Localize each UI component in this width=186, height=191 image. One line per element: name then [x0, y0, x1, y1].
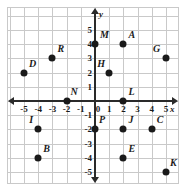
point-label-m: M [100, 30, 109, 40]
point-label-b: B [43, 144, 50, 154]
x-tick-label: 0 [96, 105, 101, 114]
point-label-p: P [99, 115, 105, 125]
data-point-b [35, 154, 42, 161]
data-point-c [148, 126, 155, 133]
grid-line-vertical [152, 7, 153, 184]
point-label-i: I [29, 115, 33, 125]
x-axis [12, 100, 174, 102]
x-tick-label: 4 [150, 105, 155, 114]
data-point-l [120, 98, 127, 105]
point-label-n: N [71, 87, 78, 97]
y-tick-label: 5 [88, 26, 93, 35]
data-point-m [92, 41, 99, 48]
y-tick-label: 1 [88, 82, 93, 91]
y-axis-label: y [99, 10, 103, 19]
grid-line-vertical [166, 7, 167, 184]
point-label-j: J [128, 115, 133, 125]
grid-line-horizontal [7, 73, 179, 74]
axis-arrow-left [8, 97, 14, 105]
point-label-e: E [128, 144, 135, 154]
x-tick-label: -1 [77, 105, 85, 114]
point-label-h: H [97, 59, 105, 69]
x-tick-label: -5 [20, 105, 28, 114]
grid-line-horizontal [7, 30, 179, 31]
grid-line-vertical [138, 7, 139, 184]
x-tick-label: 5 [164, 105, 169, 114]
grid-line-horizontal [7, 87, 179, 88]
point-label-c: C [157, 115, 164, 125]
data-point-i [35, 126, 42, 133]
point-label-g: G [153, 44, 160, 54]
x-tick-label: -3 [49, 105, 57, 114]
x-tick-label: 3 [135, 105, 140, 114]
data-point-j [120, 126, 127, 133]
x-axis-label: x [170, 105, 175, 114]
data-point-k [163, 169, 170, 176]
point-label-l: L [128, 87, 134, 97]
y-tick-label: -4 [85, 153, 93, 162]
grid-line-vertical [67, 7, 68, 184]
data-point-n [63, 98, 70, 105]
axis-arrow-up [91, 8, 99, 14]
x-tick-label: -4 [34, 105, 42, 114]
data-point-d [21, 69, 28, 76]
y-tick-label: 2 [88, 68, 93, 77]
point-label-r: R [57, 44, 64, 54]
x-tick-label: 2 [121, 105, 126, 114]
data-point-h [106, 69, 113, 76]
data-point-e [120, 154, 127, 161]
point-label-a: A [128, 30, 135, 40]
grid-line-horizontal [7, 144, 179, 145]
grid-line-horizontal [7, 172, 179, 173]
y-axis [94, 12, 96, 179]
data-point-g [163, 55, 170, 62]
axis-arrow-down [91, 177, 99, 183]
coordinate-plane-chart: -5-4-3-2-101234554321-1-2-3-4-5xy MAGRDH… [0, 0, 186, 191]
x-tick-label: -2 [63, 105, 71, 114]
y-tick-label: -5 [85, 168, 93, 177]
x-tick-label: 1 [107, 105, 112, 114]
grid-line-vertical [52, 7, 53, 184]
grid-line-horizontal [7, 16, 179, 17]
y-tick-label: -3 [85, 139, 93, 148]
data-point-r [49, 55, 56, 62]
grid-line-horizontal [7, 158, 179, 159]
data-point-p [92, 126, 99, 133]
grid-line-vertical [81, 7, 82, 184]
point-label-d: D [29, 59, 36, 69]
y-tick-label: -1 [85, 111, 93, 120]
grid-line-vertical [109, 7, 110, 184]
point-label-k: K [170, 158, 177, 168]
data-point-a [120, 41, 127, 48]
y-tick-label: 3 [88, 54, 93, 63]
